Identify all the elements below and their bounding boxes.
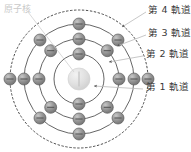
nucleus xyxy=(68,68,90,90)
electron xyxy=(34,34,46,46)
orbit-2-label: 第 2 軌道 xyxy=(146,48,189,59)
electron xyxy=(113,73,125,85)
atom-diagram-canvas xyxy=(0,0,191,152)
leader-line-orbit4 xyxy=(122,12,146,27)
electron xyxy=(112,112,124,124)
electron xyxy=(73,128,85,140)
atomic-diagram-figure: 原子核 第 4 軌道 第 3 軌道 第 2 軌道 第 1 軌道 xyxy=(0,0,191,152)
electron xyxy=(73,98,85,110)
electron xyxy=(101,45,113,57)
electron xyxy=(45,101,57,113)
electron xyxy=(18,73,30,85)
electron xyxy=(33,73,45,85)
electron xyxy=(73,48,85,60)
orbit-1-label: 第 1 軌道 xyxy=(146,81,189,92)
electron xyxy=(101,101,113,113)
electron xyxy=(73,33,85,45)
electron xyxy=(73,18,85,30)
electron xyxy=(4,73,16,85)
electron xyxy=(128,73,140,85)
orbit-4-label: 第 4 軌道 xyxy=(148,4,191,15)
orbit-3-label: 第 3 軌道 xyxy=(148,27,191,38)
electron xyxy=(34,112,46,124)
nucleus-label: 原子核 xyxy=(4,4,32,15)
electron xyxy=(73,113,85,125)
